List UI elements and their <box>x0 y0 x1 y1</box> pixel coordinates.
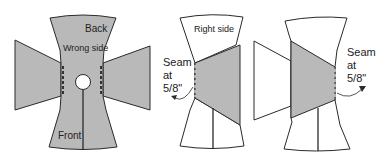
label-right-side: Right side <box>194 25 234 34</box>
left-sleeve-right-side <box>254 41 291 120</box>
panel-1 <box>15 15 150 150</box>
label-seam-5-8: Seam at 5/8" <box>347 46 376 85</box>
neck-opening <box>76 75 91 90</box>
label-back: Back <box>85 24 107 34</box>
left-sleeve <box>15 40 61 110</box>
right-sleeve <box>103 46 150 110</box>
label-wrong-side: Wrong side <box>63 44 108 53</box>
label-front: Front <box>58 131 81 141</box>
seam-arrow <box>337 89 362 96</box>
label-seam-5-8: Seam at 5/8" <box>163 56 192 95</box>
arrow-tail-icon <box>171 95 177 100</box>
